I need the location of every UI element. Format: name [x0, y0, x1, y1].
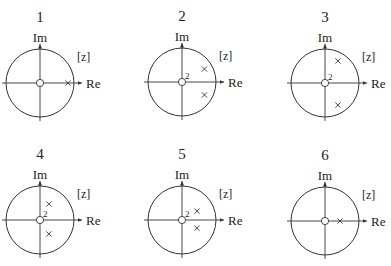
imag-axis-label: Im [318, 168, 332, 183]
panel-title: 5 [178, 146, 186, 162]
pole-zero-figure: 1Im[z]Re2Im[z]Re23Im[z]Re24Im[z]Re25Im[z… [0, 0, 391, 266]
zero-marker [36, 79, 43, 86]
pole-marker [46, 231, 51, 236]
pole-zero-panel-2: 2Im[z]Re2 [144, 8, 243, 120]
z-plane-label: [z] [362, 188, 375, 202]
panel-title: 4 [36, 146, 44, 162]
z-plane-label: [z] [77, 50, 90, 64]
pole-marker [202, 92, 207, 97]
pole-zero-panel-1: 1Im[z]Re [2, 9, 101, 121]
pole-zero-panel-5: 5Im[z]Re2 [144, 146, 243, 258]
real-axis-label: Re [86, 76, 101, 91]
panel-title: 1 [36, 9, 44, 25]
real-axis-label: Re [86, 213, 101, 228]
pole-marker [202, 66, 207, 71]
real-axis-label: Re [228, 213, 243, 228]
pole-marker [335, 103, 340, 108]
zero-multiplicity-label: 2 [185, 71, 190, 81]
z-plane-label: [z] [219, 49, 232, 63]
panel-title: 3 [321, 9, 329, 25]
z-plane-label: [z] [219, 187, 232, 201]
zero-multiplicity-label: 2 [328, 72, 333, 82]
z-plane-label: [z] [77, 187, 90, 201]
real-axis-label: Re [228, 75, 243, 90]
pole-zero-panel-3: 3Im[z]Re2 [287, 9, 386, 121]
pole-marker [194, 226, 199, 231]
real-axis-label: Re [371, 76, 386, 91]
zero-marker [321, 217, 328, 224]
panel-title: 6 [321, 147, 329, 163]
pole-marker [46, 201, 51, 206]
zero-multiplicity-label: 2 [185, 209, 190, 219]
pole-marker [194, 209, 199, 214]
imag-axis-label: Im [175, 167, 189, 182]
zero-multiplicity-label: 2 [43, 209, 48, 219]
imag-axis-label: Im [33, 167, 47, 182]
z-plane-label: [z] [362, 50, 375, 64]
panel-title: 2 [178, 8, 186, 24]
pole-marker [335, 58, 340, 63]
pole-zero-panel-6: 6Im[z]Re [287, 147, 386, 259]
imag-axis-label: Im [318, 30, 332, 45]
imag-axis-label: Im [33, 30, 47, 45]
real-axis-label: Re [371, 214, 386, 229]
pole-zero-panel-4: 4Im[z]Re2 [2, 146, 101, 258]
imag-axis-label: Im [175, 29, 189, 44]
